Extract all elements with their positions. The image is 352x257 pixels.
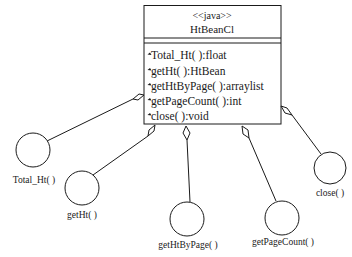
aggregation-diamond-icon (281, 106, 292, 115)
interface-label: close( ) (316, 188, 344, 199)
method-label: getHt( ):HtBean (151, 65, 226, 78)
interface-close: close( ) (281, 106, 346, 199)
interface-lollipop-icon (314, 152, 346, 184)
interface-label: Total_Ht( ) (13, 175, 55, 186)
association-line (249, 138, 276, 201)
interface-label: getHtByPage( ) (158, 240, 217, 251)
method-label: Total_Ht( ):float (151, 49, 227, 62)
interface-lollipop-icon (170, 202, 204, 236)
method-label: close( ):void (151, 110, 209, 123)
class-name: HtBeanCl (190, 23, 234, 35)
association-line (47, 99, 133, 141)
class-box: <<java>> HtBeanCl Total_Ht( ):float getH… (144, 6, 281, 125)
method-label: getPageCount( ):int (151, 95, 242, 108)
association-line (187, 140, 190, 202)
interface-lollipop-icon (16, 133, 50, 167)
interface-get-ht-by-page: getHtByPage( ) (158, 126, 217, 251)
uml-diagram: <<java>> HtBeanCl Total_Ht( ):float getH… (0, 0, 352, 257)
aggregation-diamond-icon (183, 126, 190, 140)
interface-label: getHt( ) (67, 210, 97, 221)
aggregation-diamond-icon (242, 126, 249, 138)
method-item: Total_Ht( ):float (148, 49, 228, 62)
method-item: getPageCount( ):int (148, 95, 243, 108)
method-label: getHtByPage( ):arraylist (151, 80, 265, 93)
association-line (292, 115, 321, 154)
class-stereotype: <<java>> (192, 10, 232, 21)
aggregation-diamond-icon (148, 125, 155, 136)
interface-get-ht: getHt( ) (65, 125, 155, 221)
association-line (93, 136, 148, 175)
method-item: getHt( ):HtBean (148, 65, 226, 78)
method-item: close( ):void (148, 110, 210, 123)
interface-label: getPageCount( ) (252, 237, 314, 248)
interface-lollipop-icon (65, 171, 99, 205)
aggregation-diamond-icon (133, 94, 144, 100)
interface-lollipop-icon (265, 201, 299, 235)
method-item: getHtByPage( ):arraylist (148, 80, 265, 93)
interface-get-page-count: getPageCount( ) (242, 126, 314, 248)
